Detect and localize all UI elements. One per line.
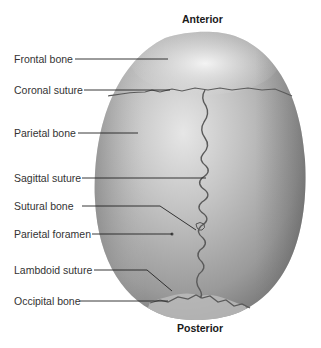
label-occipital-bone: Occipital bone xyxy=(14,295,81,307)
anterior-label: Anterior xyxy=(182,13,223,25)
label-parietal-foramen: Parietal foramen xyxy=(14,228,91,240)
label-sagittal-suture: Sagittal suture xyxy=(14,172,81,184)
label-frontal-bone: Frontal bone xyxy=(14,53,73,65)
label-coronal-suture: Coronal suture xyxy=(14,84,83,96)
label-lambdoid-suture: Lambdoid suture xyxy=(14,264,92,276)
label-sutural-bone: Sutural bone xyxy=(14,200,74,212)
posterior-label: Posterior xyxy=(177,322,223,334)
label-parietal-bone: Parietal bone xyxy=(14,127,76,139)
skull-diagram: Anterior Posterior Frontal bone Coronal … xyxy=(0,0,321,348)
